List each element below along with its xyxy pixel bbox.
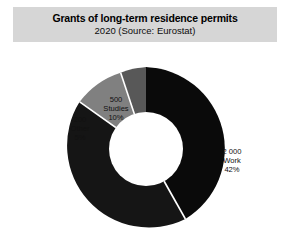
slice-label-other-value: 200 <box>71 115 90 124</box>
slice-label-studies-name: Studies <box>103 104 128 113</box>
donut-chart-svg <box>0 42 289 231</box>
slice-label-other: 200 Other 5% <box>71 115 90 143</box>
slice-label-studies: 500 Studies 10% <box>103 95 128 123</box>
chart-title-band: Grants of long-term residence permits 20… <box>13 7 277 42</box>
slice-label-work: 2 000 Work 42% <box>222 147 241 175</box>
slice-label-work-name: Work <box>222 156 241 165</box>
page-title: Grants of long-term residence permits <box>52 13 237 24</box>
slice-label-studies-percent: 10% <box>103 113 128 122</box>
slice-label-studies-value: 500 <box>103 95 128 104</box>
donut-chart-plot-area: 2 000 Work 42% 2 100 Family 43% 200 Othe… <box>0 42 289 231</box>
slice-label-other-percent: 5% <box>71 133 90 142</box>
chart-subtitle: 2020 (Source: Eurostat) <box>95 26 196 36</box>
slice-label-work-value: 2 000 <box>222 147 241 156</box>
chart-figure: Grants of long-term residence permits 20… <box>0 0 289 231</box>
slice-label-work-percent: 42% <box>222 165 241 174</box>
slice-label-other-name: Other <box>71 124 90 133</box>
